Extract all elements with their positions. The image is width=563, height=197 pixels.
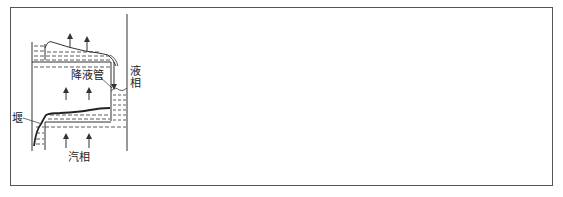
tray-column-diagram xyxy=(0,0,563,197)
downcomer-label: 降液管 xyxy=(71,70,104,81)
downcomer-liquid-surface xyxy=(111,88,127,91)
downcomer-liquid-lines xyxy=(113,95,126,120)
vapor-arrows xyxy=(66,36,89,148)
lower-liquid-lines xyxy=(36,115,126,144)
weir-label: 堰 xyxy=(12,113,23,124)
vapor-phase-label: 汽相 xyxy=(68,152,90,163)
liquid-phase-label: 液相 xyxy=(129,65,140,89)
upper-liquid-lines xyxy=(34,46,111,67)
